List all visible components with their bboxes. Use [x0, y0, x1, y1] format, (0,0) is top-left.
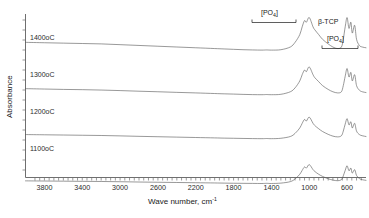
- spectra-curves: [26, 17, 367, 183]
- x-tick-label: 3800: [36, 183, 52, 192]
- x-tick-label: 3000: [112, 183, 128, 192]
- spectrum-curve-1100oC: [26, 165, 367, 184]
- spectrum-curve-1300oC: [26, 67, 367, 95]
- x-axis-title: Wave number, cm-1: [148, 196, 217, 206]
- curve-label-1400: 1400oC: [30, 34, 55, 41]
- btcp-label: β-TCP: [318, 18, 339, 26]
- ftir-spectra-figure: 1400oC 1300oC 1200oC 1100oC [PO4] β-TCP …: [0, 0, 369, 218]
- po4-v3-label: [PO4]: [261, 9, 278, 18]
- x-tick-label: 1400: [263, 183, 279, 192]
- spectrum-curve-1400oC: [26, 17, 367, 50]
- x-tick-label: 600: [341, 183, 353, 192]
- x-tick-label: 1800: [226, 183, 242, 192]
- po4-v3-annotation: [PO4]: [252, 9, 296, 23]
- x-tick-labels: 38003400300026002200180014001000600: [36, 183, 353, 192]
- curve-label-1100: 1100oC: [30, 145, 54, 152]
- y-axis-title: Absorbance: [5, 75, 14, 118]
- axis-group: [26, 14, 367, 178]
- x-tick-label: 3400: [74, 183, 90, 192]
- curve-label-1300: 1300oC: [30, 71, 55, 78]
- x-tick-label: 1000: [301, 183, 317, 192]
- curve-label-1200: 1200oC: [30, 108, 55, 115]
- po4-v4-annotation: [PO4]: [322, 35, 358, 49]
- x-tick-label: 2600: [150, 183, 166, 192]
- spectrum-curve-1200oC: [26, 117, 367, 139]
- x-tick-label: 2200: [188, 183, 204, 192]
- po4-v3-bracket: [252, 20, 296, 23]
- po4-v4-label: [PO4]: [327, 35, 344, 44]
